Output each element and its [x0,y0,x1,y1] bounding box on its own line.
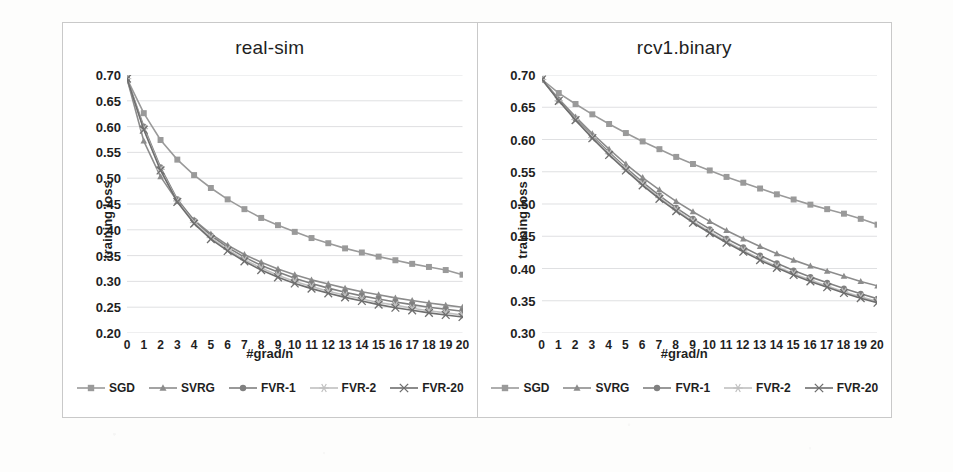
y-tick-label: 0.40 [96,222,121,237]
y-tick-label: 0.40 [510,261,535,276]
x-marker [804,382,834,394]
legend-right: SGDSVRGFVR-1FVR-2FVR-20 [478,381,892,395]
square-marker [790,196,796,202]
square-marker [141,110,147,116]
legend-label: FVR-20 [837,381,878,395]
y-tick-label: 0.55 [510,164,535,179]
square-marker [174,157,180,163]
triangle-marker [672,198,679,204]
legend-item-fvr-2[interactable]: FVR-2 [723,381,791,395]
square-marker [857,216,863,222]
plot-area-left: 0.200.250.300.350.400.450.500.550.600.65… [127,75,463,333]
square-marker [392,257,398,263]
circle-marker [240,385,246,391]
legend-label: SVRG [181,381,215,395]
chart-svg-right [542,75,878,333]
square-marker [723,174,729,180]
square-marker [225,196,231,202]
square-marker [807,202,813,208]
series-svrg [542,76,878,288]
chart-title-left: real-sim [63,37,477,59]
square-marker [88,385,94,391]
square-marker [275,222,281,228]
circle-marker [654,385,660,391]
square-marker [460,272,463,278]
y-tick-label: 0.70 [96,68,121,83]
legend-label: SVRG [595,381,629,395]
series-svrg [127,75,463,310]
y-axis-ticks-right: 0.300.350.400.450.500.550.600.650.70 [480,75,536,333]
y-tick-label: 0.65 [96,93,121,108]
y-tick-label: 0.30 [510,326,535,341]
square-marker [757,186,763,192]
square-marker [325,240,331,246]
legend-label: SGD [109,381,135,395]
legend-item-fvr-20[interactable]: FVR-20 [389,381,463,395]
legend-label: FVR-1 [261,381,296,395]
chart-panel-real-sim: real-sim training loss 0.200.250.300.350… [63,23,478,417]
y-tick-label: 0.35 [96,248,121,263]
square-marker [409,261,415,267]
square-marker [426,264,432,270]
square-marker [191,172,197,178]
square-marker [656,146,662,152]
triangle-marker [562,382,592,394]
star-marker [319,384,328,392]
figure-root: real-sim training loss 0.200.250.300.350… [0,0,953,472]
series-sgd [127,76,463,278]
square-marker [342,245,348,251]
legend-item-fvr-2[interactable]: FVR-2 [309,381,377,395]
square-marker [208,185,214,191]
square-marker [874,222,877,228]
series-fvr-1 [127,76,463,315]
star-marker [309,382,339,394]
square-marker [555,90,561,96]
chart-title-right: rcv1.binary [478,37,892,59]
star-marker [733,384,742,392]
legend-label: FVR-20 [422,381,463,395]
square-marker [258,215,264,221]
triangle-marker [148,382,178,394]
y-tick-label: 0.45 [96,197,121,212]
y-tick-label: 0.50 [96,171,121,186]
square-marker [773,191,779,197]
legend-item-svrg[interactable]: SVRG [562,381,629,395]
legend-item-fvr-1[interactable]: FVR-1 [228,381,296,395]
circle-marker [228,382,258,394]
y-tick-label: 0.20 [96,326,121,341]
square-marker [639,138,645,144]
triangle-marker [689,208,696,214]
plot-area-right: 0.300.350.400.450.500.550.600.650.70 012… [542,75,878,333]
square-marker [359,250,365,256]
legend-label: FVR-2 [342,381,377,395]
square-marker [706,167,712,173]
legend-label: SGD [523,381,549,395]
legend-item-fvr-1[interactable]: FVR-1 [642,381,710,395]
legend-item-sgd[interactable]: SGD [490,381,549,395]
y-tick-label: 0.45 [510,229,535,244]
chart-svg-left [127,75,463,333]
square-marker [376,254,382,260]
legend-item-sgd[interactable]: SGD [76,381,135,395]
triangle-marker [141,138,148,144]
square-marker [840,211,846,217]
series-sgd [542,77,878,228]
x-axis-label-right: #grad/n [478,346,892,361]
square-marker [589,111,595,117]
chart-panels-container: real-sim training loss 0.200.250.300.350… [62,22,892,418]
legend-item-svrg[interactable]: SVRG [148,381,215,395]
star-marker [723,382,753,394]
y-axis-ticks-left: 0.200.250.300.350.400.450.500.550.600.65… [65,75,121,333]
y-tick-label: 0.50 [510,197,535,212]
square-marker [673,154,679,160]
y-tick-label: 0.55 [96,145,121,160]
legend-left: SGDSVRGFVR-1FVR-2FVR-20 [63,381,477,395]
circle-marker [642,382,672,394]
y-tick-label: 0.65 [510,100,535,115]
x-axis-label-left: #grad/n [63,346,477,361]
square-marker [241,206,247,212]
y-tick-label: 0.70 [510,68,535,83]
legend-item-fvr-20[interactable]: FVR-20 [804,381,878,395]
square-marker [572,101,578,107]
square-marker [443,267,449,273]
